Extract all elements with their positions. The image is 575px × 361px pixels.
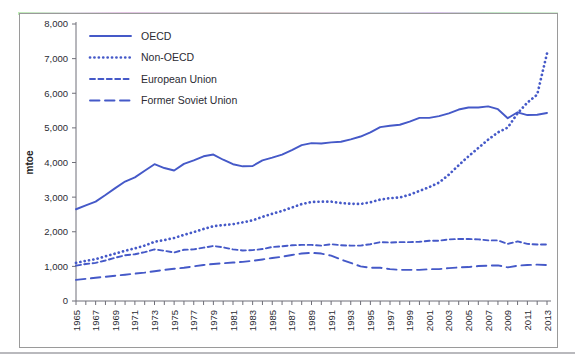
y-axis-tick-label: 8,000	[44, 18, 68, 29]
page-bottom-edge	[0, 352, 575, 354]
x-axis-tick-label: 1989	[306, 310, 317, 331]
x-axis-tick-label: 2009	[502, 310, 513, 331]
x-axis-tick-label: 1965	[71, 310, 82, 331]
series-line-former-soviet-union	[76, 253, 547, 280]
x-axis-tick-label: 1981	[228, 310, 239, 331]
y-axis-tick-label: 6,000	[44, 88, 68, 99]
x-axis-tick-label: 1983	[247, 310, 258, 331]
x-axis-tick-label: 1987	[286, 310, 297, 331]
legend-label-former-soviet-union: Former Soviet Union	[141, 94, 237, 106]
series-line-european-union	[76, 239, 547, 266]
y-axis-tick-label: 3,000	[44, 192, 68, 203]
x-axis-tick-label: 1979	[208, 310, 219, 331]
chart-frame: 01,0002,0003,0004,0005,0006,0007,0008,00…	[19, 13, 558, 348]
x-axis-tick-label: 1991	[326, 310, 337, 331]
x-axis-tick-label: 1999	[404, 310, 415, 331]
x-axis-tick-label: 1995	[365, 310, 376, 331]
x-axis-tick-label: 2007	[483, 310, 494, 331]
x-axis-tick-label: 1973	[149, 310, 160, 331]
y-axis-tick-label: 2,000	[44, 226, 68, 237]
y-axis-tick-label: 1,000	[44, 261, 68, 272]
x-axis-tick-label: 2001	[424, 310, 435, 331]
x-axis-tick-label: 1993	[345, 310, 356, 331]
legend-label-european-union: European Union	[141, 73, 217, 85]
x-axis-tick-label: 2005	[463, 310, 474, 331]
y-axis-tick-label: 5,000	[44, 122, 68, 133]
x-axis-tick-label: 1969	[110, 310, 121, 331]
x-axis-tick-label: 1971	[129, 310, 140, 331]
x-axis-tick-label: 1985	[267, 310, 278, 331]
legend-label-non-oecd: Non-OECD	[141, 51, 195, 63]
scanned-page: 01,0002,0003,0004,0005,0006,0007,0008,00…	[0, 0, 575, 361]
line-chart: 01,0002,0003,0004,0005,0006,0007,0008,00…	[20, 14, 557, 347]
x-axis-tick-label: 2011	[522, 310, 533, 330]
y-axis-tick-label: 7,000	[44, 53, 68, 64]
y-axis-title: mtoe	[24, 150, 35, 174]
series-line-oecd	[76, 106, 547, 209]
x-axis-tick-label: 1997	[385, 310, 396, 331]
y-axis-tick-label: 4,000	[44, 157, 68, 168]
x-axis-tick-label: 1977	[188, 310, 199, 331]
x-axis-tick-label: 2003	[443, 310, 454, 331]
x-axis-tick-label: 1967	[90, 310, 101, 331]
legend-label-oecd: OECD	[141, 30, 172, 42]
x-axis-tick-label: 1975	[169, 310, 180, 331]
y-axis-tick-label: 0	[63, 295, 68, 306]
x-axis-tick-label: 2013	[542, 310, 553, 331]
series-line-non-oecd	[76, 53, 547, 262]
